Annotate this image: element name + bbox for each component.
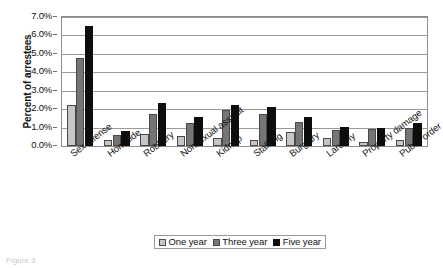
y-tick-label: 5.0% (31, 48, 52, 58)
legend-swatch (159, 239, 166, 246)
bar-group (245, 17, 282, 146)
y-tick-label: 1.0% (31, 122, 52, 132)
bar-group (62, 17, 99, 146)
legend-label: One year (169, 237, 207, 247)
legend-item: Three year (213, 237, 267, 247)
y-tick-mark (53, 53, 57, 54)
y-tick-mark (53, 108, 57, 109)
y-tick-label: 2.0% (31, 103, 52, 113)
chart-legend: One yearThree yearFive year (154, 235, 326, 249)
y-axis-ticks: 0.0%1.0%2.0%3.0%4.0%5.0%6.0%7.0% (0, 16, 57, 147)
bar (67, 105, 75, 146)
figure-caption: Figure 3 (6, 256, 35, 265)
bars-layer (62, 17, 427, 146)
legend-swatch (213, 239, 220, 246)
x-axis-labels: Sex offenseHomicideRobberyNonsexual assa… (0, 148, 435, 226)
legend-label: Five year (283, 237, 321, 247)
bar-group (135, 17, 172, 146)
bar (76, 58, 84, 146)
legend-label: Three year (222, 237, 267, 247)
y-tick-mark (53, 34, 57, 35)
bar (85, 26, 93, 146)
y-tick-label: 7.0% (31, 11, 52, 21)
y-tick-label: 6.0% (31, 29, 52, 39)
bar-group (172, 17, 209, 146)
legend-item: Five year (273, 237, 321, 247)
y-tick-mark (53, 145, 57, 146)
y-tick-mark (53, 71, 57, 72)
y-tick-label: 3.0% (31, 85, 52, 95)
legend-item: One year (159, 237, 207, 247)
bar-group (354, 17, 391, 146)
legend-swatch (273, 239, 280, 246)
y-tick-label: 4.0% (31, 66, 52, 76)
bar-group (281, 17, 318, 146)
y-tick-mark (53, 16, 57, 17)
bar-group (318, 17, 355, 146)
y-tick-mark (53, 90, 57, 91)
y-tick-mark (53, 127, 57, 128)
